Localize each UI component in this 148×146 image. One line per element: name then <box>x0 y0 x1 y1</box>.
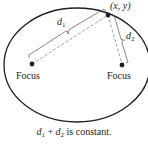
focus-right-label: Focus <box>107 71 131 81</box>
focus-right-point <box>120 63 125 68</box>
d2-label: d2 <box>126 31 135 43</box>
point-xy <box>106 13 111 18</box>
focus-left-label: Focus <box>16 71 40 81</box>
d1-label: d1 <box>57 17 66 29</box>
dashed-line-d2 <box>108 15 122 64</box>
bracket-d1-tick <box>66 29 70 34</box>
bracket-d2-tick <box>121 39 125 43</box>
dashed-line-d1 <box>32 15 108 64</box>
caption: d1 + d2 is constant. <box>0 127 148 139</box>
focus-left-point <box>30 62 35 67</box>
point-label: (x, y) <box>110 1 131 11</box>
bracket-d1 <box>29 9 106 58</box>
